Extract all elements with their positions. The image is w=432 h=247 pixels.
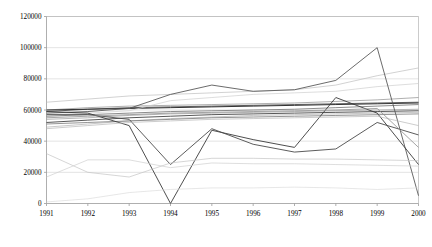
- y-tick-label: 40000: [24, 138, 42, 146]
- y-axis-tick-labels: 020000400006000080000100000120000: [20, 13, 47, 208]
- y-tick-label: 0: [38, 200, 42, 208]
- chart-svg: 020000400006000080000100000120000 199119…: [0, 0, 432, 247]
- series-line-series-1: [47, 68, 419, 102]
- x-tick-label: 1998: [329, 210, 344, 218]
- series-line-series-16: [47, 187, 419, 202]
- y-tick-label: 120000: [20, 13, 42, 21]
- gridlines-group: [47, 17, 419, 173]
- x-tick-label: 1993: [122, 210, 137, 218]
- y-tick-label: 60000: [24, 107, 42, 115]
- y-tick-label: 80000: [24, 75, 42, 83]
- y-tick-label: 100000: [20, 44, 42, 52]
- x-tick-label: 1992: [81, 210, 96, 218]
- x-tick-label: 1995: [205, 210, 220, 218]
- x-tick-label: 1994: [163, 210, 178, 218]
- x-tick-label: 1999: [370, 210, 385, 218]
- series-line-series-15: [47, 160, 419, 177]
- series-line-series-17: [47, 116, 419, 128]
- line-chart: 020000400006000080000100000120000 199119…: [0, 0, 432, 247]
- x-tick-label: 1991: [39, 210, 54, 218]
- series-lines-group: [47, 48, 419, 204]
- plot-area-wrapper: 020000400006000080000100000120000 199119…: [0, 0, 432, 247]
- x-tick-label: 1997: [287, 210, 302, 218]
- y-tick-label: 20000: [24, 169, 42, 177]
- x-tick-label: 2000: [411, 210, 426, 218]
- x-tick-label: 1996: [246, 210, 261, 218]
- x-axis-tick-labels: 1991199219931994199519961997199819992000: [39, 204, 426, 218]
